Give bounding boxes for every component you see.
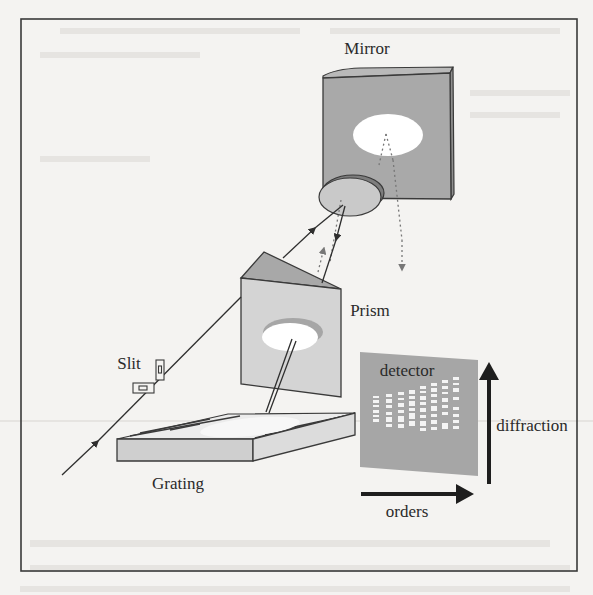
mirror-reflection — [353, 114, 423, 156]
orders-arrow — [361, 484, 474, 504]
label-diffraction: diffraction — [496, 416, 567, 436]
grating — [117, 413, 355, 461]
label-prism: Prism — [350, 301, 390, 321]
prism-aperture — [262, 323, 318, 351]
label-grating: Grating — [152, 474, 204, 494]
diagram-canvas — [0, 0, 593, 595]
label-orders: orders — [386, 502, 428, 522]
label-detector: detector — [380, 361, 435, 381]
spectrometer-figure: Mirror Prism Slit Grating detector diffr… — [0, 0, 593, 595]
label-mirror: Mirror — [344, 39, 389, 59]
label-slit: Slit — [117, 354, 141, 374]
fold-mirror — [319, 175, 384, 216]
prism — [241, 252, 341, 397]
